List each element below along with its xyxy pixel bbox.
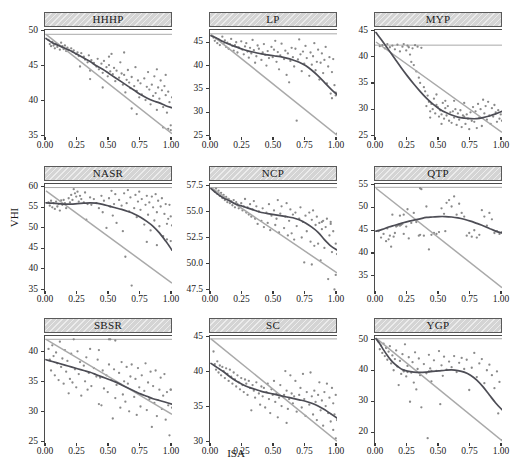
plot-canvas (375, 30, 502, 137)
y-tick-mark (206, 42, 209, 43)
plot-area-sc (209, 335, 337, 443)
x-tick-label: 0.75 (461, 295, 478, 305)
y-tick-label: 30 (0, 407, 38, 417)
y-tick-label: 40 (0, 264, 38, 274)
x-tick-label: 1.00 (493, 295, 510, 305)
y-tick-mark (41, 411, 44, 412)
plot-canvas (375, 184, 502, 291)
panel-strip-ygp: YGP (374, 318, 502, 333)
x-tick-label: 0.25 (233, 295, 250, 305)
x-tick-label: 0.50 (430, 447, 447, 457)
y-tick-mark (206, 289, 209, 290)
y-tick-mark (206, 65, 209, 66)
y-tick-label: 40 (165, 367, 203, 377)
plot-area-nasr (44, 183, 172, 291)
x-tick-label: 0.00 (37, 447, 54, 457)
y-tick-mark (41, 135, 44, 136)
plot-canvas (375, 336, 502, 443)
y-tick-mark (371, 401, 374, 402)
x-tick-label: 0.75 (461, 447, 478, 457)
y-tick-label: 25 (0, 437, 38, 447)
y-tick-mark (371, 230, 374, 231)
y-tick-label: 30 (330, 397, 368, 407)
y-tick-label: 45 (0, 61, 38, 71)
data-points (212, 187, 337, 290)
y-tick-mark (371, 135, 374, 136)
plot-canvas (210, 336, 337, 443)
y-tick-mark (206, 185, 209, 186)
plot-area-lp (209, 29, 337, 137)
y-tick-mark (206, 135, 209, 136)
panel-title: NCP (262, 168, 284, 179)
linear-trend-line (376, 188, 502, 288)
x-tick-label: 0.00 (37, 295, 54, 305)
x-tick-label: 1.00 (163, 295, 180, 305)
y-tick-mark (371, 207, 374, 208)
plot-area-ygp (374, 335, 502, 443)
y-tick-mark (41, 100, 44, 101)
y-tick-label: 45 (165, 332, 203, 342)
x-tick-label: 0.00 (367, 141, 384, 151)
panel-title: NASR (93, 168, 124, 179)
y-tick-label: 40 (330, 52, 368, 62)
panel-title: LP (266, 14, 279, 25)
x-tick-label: 0.75 (461, 141, 478, 151)
x-tick-label: 0.75 (131, 295, 148, 305)
x-tick-label: 1.00 (493, 447, 510, 457)
y-tick-label: 35 (165, 402, 203, 412)
y-tick-label: 50 (0, 223, 38, 233)
y-tick-label: 40 (330, 366, 368, 376)
x-tick-label: 1.00 (163, 447, 180, 457)
y-tick-label: 30 (165, 437, 203, 447)
x-tick-label: 0.50 (265, 447, 282, 457)
y-tick-mark (41, 248, 44, 249)
panel-strip-qtp: QTP (374, 166, 502, 181)
y-tick-mark (41, 441, 44, 442)
panel-title: SC (266, 320, 280, 331)
x-tick-label: 0.00 (367, 447, 384, 457)
linear-trend-line (211, 339, 337, 441)
y-tick-mark (41, 268, 44, 269)
y-tick-mark (206, 371, 209, 372)
y-tick-label: 57.5 (165, 181, 203, 191)
y-tick-label: 40 (0, 347, 38, 357)
panel-title: HHHP (92, 14, 123, 25)
y-tick-mark (371, 432, 374, 433)
y-tick-label: 20 (330, 427, 368, 437)
y-tick-mark (41, 186, 44, 187)
x-tick-label: 0.50 (100, 141, 117, 151)
y-tick-label: 40 (0, 96, 38, 106)
linear-trend-line (46, 339, 172, 414)
y-tick-label: 55 (0, 202, 38, 212)
fitted-curve (376, 216, 502, 232)
panel-title: YGP (427, 320, 450, 331)
panel-strip-hhhp: HHHP (44, 12, 172, 27)
y-tick-mark (371, 339, 374, 340)
panel-strip-myp: MYP (374, 12, 502, 27)
y-tick-label: 25 (330, 131, 368, 141)
y-tick-label: 40 (330, 248, 368, 258)
x-tick-label: 0.00 (37, 141, 54, 151)
y-tick-label: 25 (165, 131, 203, 141)
fitted-curve (46, 203, 172, 250)
fitted-curve (211, 189, 337, 250)
y-tick-mark (206, 336, 209, 337)
plot-canvas (45, 184, 172, 291)
y-tick-label: 50 (0, 26, 38, 36)
data-points (47, 338, 172, 436)
y-tick-label: 45 (330, 225, 368, 235)
fitted-curve (376, 339, 502, 410)
x-tick-label: 0.50 (100, 447, 117, 457)
y-tick-mark (206, 263, 209, 264)
plot-area-hhhp (44, 29, 172, 137)
multi-panel-scatter-figure: VHI ISA HHHP354045500.000.250.500.751.00… (0, 0, 516, 464)
y-tick-mark (371, 252, 374, 253)
y-tick-label: 40 (165, 61, 203, 71)
panel-title: MYP (426, 14, 451, 25)
y-tick-label: 60 (0, 182, 38, 192)
y-tick-label: 35 (0, 285, 38, 295)
linear-trend-line (376, 42, 502, 132)
y-tick-label: 30 (165, 107, 203, 117)
x-tick-label: 0.00 (202, 295, 219, 305)
x-tick-label: 0.50 (100, 295, 117, 305)
